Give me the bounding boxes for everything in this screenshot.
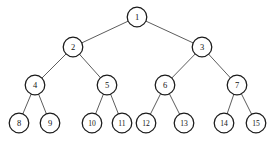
- tree-node-14[interactable]: 14: [214, 113, 234, 133]
- tree-node-label-2: 2: [71, 42, 75, 52]
- node-layer: 123456789101112131415: [9, 7, 266, 133]
- tree-node-label-14: 14: [220, 119, 228, 128]
- tree-node-10[interactable]: 10: [82, 113, 102, 133]
- tree-node-label-10: 10: [88, 119, 96, 128]
- tree-node-label-5: 5: [105, 80, 109, 90]
- tree-node-label-7: 7: [235, 80, 239, 90]
- tree-edge-7-15: [241, 94, 251, 114]
- tree-edge-2-5: [80, 54, 101, 77]
- tree-node-label-13: 13: [180, 119, 188, 128]
- tree-edge-1-2: [82, 21, 128, 43]
- tree-node-label-15: 15: [252, 119, 260, 128]
- binary-tree-canvas: 123456789101112131415: [0, 0, 274, 145]
- tree-node-4[interactable]: 4: [25, 75, 45, 95]
- tree-node-label-6: 6: [163, 80, 167, 90]
- tree-node-2[interactable]: 2: [63, 37, 83, 57]
- tree-node-label-1: 1: [135, 12, 139, 22]
- tree-node-6[interactable]: 6: [155, 75, 175, 95]
- tree-edge-2-4: [42, 54, 66, 78]
- tree-node-3[interactable]: 3: [192, 37, 212, 57]
- tree-node-label-11: 11: [118, 119, 126, 128]
- tree-node-8[interactable]: 8: [9, 113, 29, 133]
- tree-edge-3-6: [172, 54, 195, 78]
- tree-node-label-9: 9: [48, 118, 52, 128]
- tree-node-label-3: 3: [200, 42, 204, 52]
- tree-edge-6-12: [150, 94, 160, 114]
- tree-edge-7-14: [227, 94, 234, 113]
- tree-node-13[interactable]: 13: [174, 113, 194, 133]
- tree-node-12[interactable]: 12: [136, 113, 156, 133]
- binary-tree-figure: 123456789101112131415: [0, 0, 274, 145]
- tree-node-label-12: 12: [142, 119, 150, 128]
- tree-node-7[interactable]: 7: [227, 75, 247, 95]
- tree-edge-6-13: [169, 94, 179, 114]
- tree-node-15[interactable]: 15: [246, 113, 266, 133]
- tree-node-5[interactable]: 5: [97, 75, 117, 95]
- tree-edge-5-11: [111, 94, 119, 114]
- tree-node-9[interactable]: 9: [40, 113, 60, 133]
- tree-node-1[interactable]: 1: [127, 7, 147, 27]
- tree-edge-4-8: [23, 94, 31, 114]
- tree-node-11[interactable]: 11: [112, 113, 132, 133]
- tree-edge-1-3: [146, 21, 193, 43]
- edge-layer: [23, 21, 252, 114]
- tree-edge-4-9: [39, 94, 47, 114]
- tree-edge-3-7: [209, 54, 231, 78]
- tree-edge-5-10: [96, 94, 104, 114]
- tree-node-label-8: 8: [17, 118, 21, 128]
